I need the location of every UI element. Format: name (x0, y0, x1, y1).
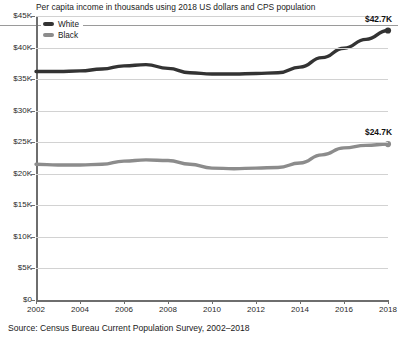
y-tick-label: $20K (13, 169, 32, 178)
x-tick-mark (212, 300, 213, 304)
y-tick-mark (31, 205, 35, 206)
series-line-black (36, 144, 388, 169)
series-line-white (36, 31, 388, 75)
x-tick-mark (344, 300, 345, 304)
gridline (36, 79, 388, 80)
x-tick-label: 2008 (159, 305, 177, 314)
series-endpoint-white (385, 27, 391, 33)
legend-swatch-white (43, 22, 54, 27)
x-tick-label: 2018 (379, 305, 397, 314)
gridline (36, 111, 388, 112)
x-tick-mark (36, 300, 37, 304)
series-end-label-black: $24.7K (365, 127, 392, 137)
y-tick-label: $40K (13, 43, 32, 52)
legend-label-white: White (58, 20, 79, 29)
y-tick-label: $15K (13, 200, 32, 209)
x-tick-label: 2014 (291, 305, 309, 314)
y-tick-mark (31, 142, 35, 143)
gridline (36, 48, 388, 49)
x-tick-mark (300, 300, 301, 304)
series-lines (36, 16, 388, 301)
legend-swatch-black (43, 33, 54, 38)
x-tick-label: 2016 (335, 305, 353, 314)
y-axis: $0$5K$10K$15K$20K$25K$30K$35K$40K$45K (0, 16, 32, 301)
gridline (36, 16, 388, 17)
gridline (36, 205, 388, 206)
y-tick-label: $10K (13, 232, 32, 241)
gridline (36, 174, 388, 175)
legend-item-black[interactable]: Black (43, 30, 79, 40)
series-end-label-white: $42.7K (365, 14, 392, 24)
source-note: Source: Census Bureau Current Population… (8, 323, 250, 333)
y-tick-label: $25K (13, 137, 32, 146)
y-tick-label: $30K (13, 106, 32, 115)
y-tick-mark (31, 48, 35, 49)
x-tick-label: 2012 (247, 305, 265, 314)
y-tick-mark (31, 111, 35, 112)
y-tick-mark (31, 174, 35, 175)
x-tick-mark (256, 300, 257, 304)
x-tick-label: 2006 (115, 305, 133, 314)
chart-legend: White Black (41, 18, 83, 43)
chart-figure: Per capita income in thousands using 201… (0, 0, 398, 341)
y-tick-label: $45K (13, 11, 32, 20)
y-tick-label: $5K (18, 263, 32, 272)
x-tick-mark (388, 300, 389, 304)
y-tick-mark (31, 16, 35, 17)
legend-item-white[interactable]: White (43, 19, 79, 29)
x-axis: 200220042006200820102012201420162018 (36, 300, 388, 320)
legend-label-black: Black (58, 31, 78, 40)
chart-title: Per capita income in thousands using 201… (36, 2, 315, 13)
y-tick-mark (31, 79, 35, 80)
gridline (36, 268, 388, 269)
plot-area (36, 16, 388, 300)
x-tick-mark (80, 300, 81, 304)
x-tick-mark (168, 300, 169, 304)
x-tick-label: 2004 (71, 305, 89, 314)
y-tick-mark (31, 300, 35, 301)
gridline (36, 237, 388, 238)
gridline (36, 142, 388, 143)
y-tick-label: $35K (13, 74, 32, 83)
x-tick-mark (124, 300, 125, 304)
x-tick-label: 2002 (27, 305, 45, 314)
y-tick-mark (31, 268, 35, 269)
x-tick-label: 2010 (203, 305, 221, 314)
y-tick-mark (31, 237, 35, 238)
